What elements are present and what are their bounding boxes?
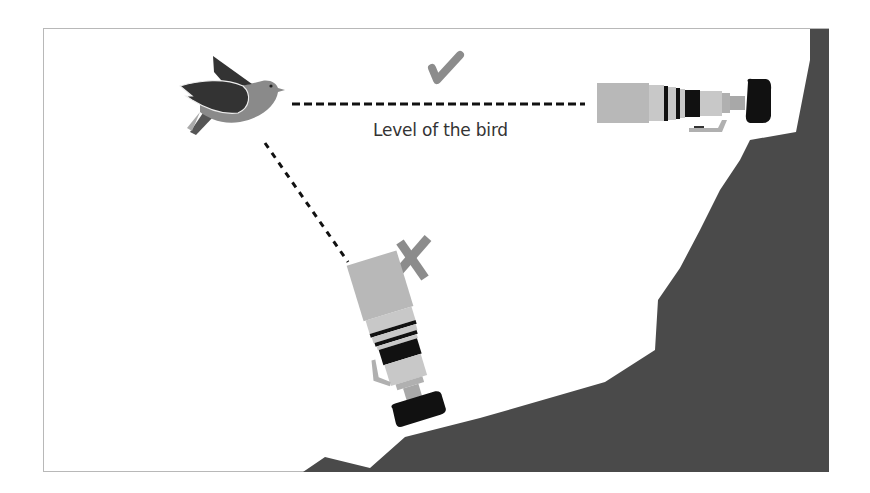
check-mark-icon	[432, 55, 460, 80]
diagram-scene	[0, 0, 870, 493]
level-of-bird-label: Level of the bird	[373, 120, 508, 140]
low-angle-dashed-line	[265, 143, 348, 262]
camera-low-icon	[339, 250, 447, 431]
bird-icon	[180, 56, 285, 135]
camera-level-icon	[597, 79, 771, 132]
